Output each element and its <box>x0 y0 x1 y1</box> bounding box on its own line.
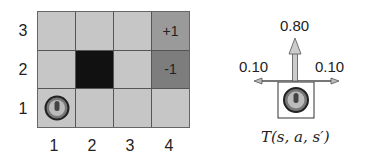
transition-caption: T(s, a, s′) <box>261 128 330 146</box>
prob-left: 0.10 <box>239 58 268 75</box>
prob-right: 0.10 <box>315 58 344 75</box>
prob-intended: 0.80 <box>280 17 309 34</box>
